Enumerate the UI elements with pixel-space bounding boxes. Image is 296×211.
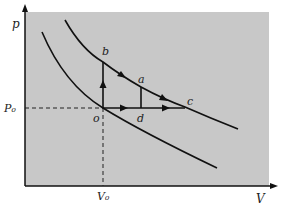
v0-tick-label: V₀ bbox=[97, 190, 110, 203]
point-label-c: c bbox=[187, 95, 193, 108]
y-axis-label: p bbox=[12, 17, 20, 31]
point-label-o: o bbox=[93, 112, 100, 125]
point-label-b: b bbox=[102, 45, 109, 58]
x-axis-label: V bbox=[256, 192, 266, 206]
point-label-a: a bbox=[138, 73, 145, 86]
plot-background bbox=[25, 12, 269, 186]
p0-tick-label: P₀ bbox=[3, 102, 16, 115]
pv-diagram: p V P₀ V₀ b a c o d bbox=[0, 0, 296, 211]
point-label-d: d bbox=[137, 112, 144, 125]
